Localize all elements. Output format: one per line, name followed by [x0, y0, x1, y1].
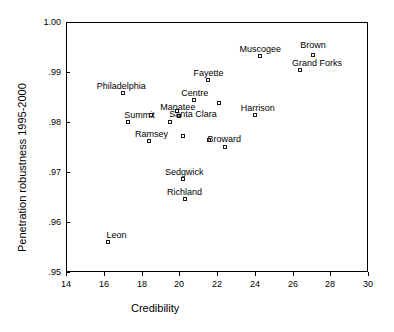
- data-point-marker[interactable]: [206, 78, 210, 82]
- data-point-marker[interactable]: [298, 68, 302, 72]
- x-tick-label: 20: [167, 279, 191, 289]
- data-point-marker[interactable]: [121, 91, 125, 95]
- x-tick-label: 22: [205, 279, 229, 289]
- x-tick-label: 16: [92, 279, 116, 289]
- data-point-marker[interactable]: [106, 240, 110, 244]
- x-tick-mark: [217, 272, 218, 276]
- data-point-label: Harrison: [241, 103, 275, 113]
- data-point-marker[interactable]: [181, 134, 185, 138]
- y-tick-label: .99: [31, 67, 61, 77]
- x-axis-title: Credibility: [131, 302, 179, 314]
- x-tick-mark: [104, 272, 105, 276]
- data-point-label: Leon: [107, 230, 127, 240]
- y-tick-label: 1.00: [31, 17, 61, 27]
- data-point-label: Brown: [300, 40, 326, 50]
- data-point-label: Philadelphia: [97, 81, 146, 91]
- data-point-label: Richland: [167, 187, 202, 197]
- data-point-marker[interactable]: [183, 197, 187, 201]
- data-point-marker[interactable]: [217, 101, 221, 105]
- data-point-marker[interactable]: [149, 113, 153, 117]
- y-tick-label: .96: [31, 217, 61, 227]
- data-point-label: Fayette: [194, 68, 224, 78]
- x-tick-mark: [330, 272, 331, 276]
- data-point-marker[interactable]: [253, 113, 257, 117]
- x-tick-label: 14: [54, 279, 78, 289]
- y-tick-label: .98: [31, 117, 61, 127]
- data-point-marker[interactable]: [258, 54, 262, 58]
- x-tick-label: 18: [130, 279, 154, 289]
- y-axis-title: Penetration robustness 1995-2000: [16, 83, 28, 252]
- x-tick-mark: [293, 272, 294, 276]
- data-point-label: Centre: [181, 88, 208, 98]
- x-tick-mark: [66, 272, 67, 276]
- x-tick-label: 28: [318, 279, 342, 289]
- plot-area: LeonPhiladelphiaSummitRamseyManateeSanta…: [66, 22, 368, 272]
- data-point-marker[interactable]: [192, 98, 196, 102]
- x-tick-label: 26: [281, 279, 305, 289]
- data-point-label: Muscogee: [239, 44, 281, 54]
- data-point-label: Broward: [207, 134, 241, 144]
- x-tick-mark: [255, 272, 256, 276]
- x-tick-label: 30: [356, 279, 380, 289]
- data-point-label: Sedgwick: [165, 167, 204, 177]
- data-point-marker[interactable]: [181, 177, 185, 181]
- chart-page: Penetration robustness 1995-2000 Credibi…: [0, 0, 394, 332]
- data-point-label: Ramsey: [135, 129, 168, 139]
- data-point-marker[interactable]: [223, 145, 227, 149]
- x-tick-mark: [368, 272, 369, 276]
- data-point-label: Santa Clara: [169, 109, 217, 119]
- x-tick-label: 24: [243, 279, 267, 289]
- x-tick-mark: [179, 272, 180, 276]
- data-point-marker[interactable]: [147, 139, 151, 143]
- data-point-marker[interactable]: [126, 120, 130, 124]
- data-point-label: Grand Forks: [292, 58, 342, 68]
- y-tick-label: .95: [31, 267, 61, 277]
- x-tick-mark: [142, 272, 143, 276]
- data-point-marker[interactable]: [168, 120, 172, 124]
- y-tick-label: .97: [31, 167, 61, 177]
- data-point-marker[interactable]: [311, 53, 315, 57]
